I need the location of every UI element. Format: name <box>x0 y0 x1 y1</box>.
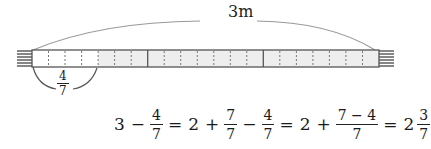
right-end-cap <box>379 50 394 67</box>
length-arc-right <box>257 21 375 50</box>
eq-fraction-3-den: 7 <box>264 125 273 141</box>
eq-result-whole: 2 <box>401 114 416 134</box>
subtraction-equation: 3 − 4 7 = 2 + 7 7 − 4 7 = 2 + 7 − 4 7 = … <box>112 104 431 144</box>
eq-equals-1: = <box>164 114 186 134</box>
cut-brace-right <box>73 68 97 89</box>
cut-brace-left <box>33 67 56 89</box>
eq-fraction-1-num: 4 <box>150 108 163 125</box>
eq-plus-2: + <box>313 114 335 134</box>
left-end-cap <box>17 50 32 67</box>
eq-two-a: 2 <box>186 114 201 134</box>
eq-fraction-3: 4 7 <box>262 108 275 141</box>
cut-fraction-denominator: 7 <box>59 84 67 97</box>
eq-fraction-1: 4 7 <box>150 108 163 141</box>
eq-fraction-3-num: 4 <box>262 108 275 125</box>
eq-plus-1: + <box>201 114 223 134</box>
eq-equals-2: = <box>275 114 297 134</box>
eq-fraction-2: 7 7 <box>224 108 237 141</box>
eq-minus-2: − <box>238 114 260 134</box>
eq-equals-3: = <box>379 114 401 134</box>
cut-fraction-numerator: 4 <box>57 70 69 84</box>
eq-fraction-1-den: 7 <box>152 125 161 141</box>
eq-result-fraction-num: 3 <box>417 108 430 125</box>
eq-fraction-4-den: 7 <box>353 125 362 141</box>
eq-fraction-2-num: 7 <box>224 108 237 125</box>
eq-result-fraction: 3 7 <box>417 108 430 141</box>
eq-two-b: 2 <box>298 114 313 134</box>
cut-fraction-label: 4 7 <box>57 70 69 97</box>
length-arc-left <box>33 21 200 50</box>
eq-fraction-4-num: 7 − 4 <box>336 108 378 125</box>
eq-fraction-2-den: 7 <box>226 125 235 141</box>
eq-whole: 3 <box>112 114 127 134</box>
eq-fraction-4: 7 − 4 7 <box>336 108 378 141</box>
total-length-label: 3m <box>228 2 253 21</box>
eq-result-fraction-den: 7 <box>419 125 428 141</box>
eq-minus-1: − <box>127 114 149 134</box>
